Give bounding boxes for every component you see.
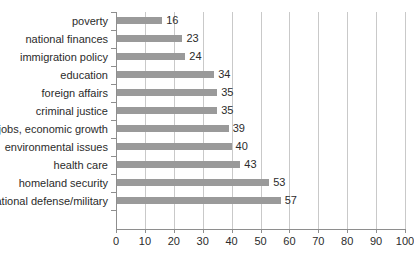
- y-axis-label: environmental issues: [5, 138, 108, 156]
- y-axis-label: health care: [54, 156, 108, 174]
- gridline-100: [405, 12, 406, 229]
- y-axis-label: education: [60, 66, 108, 84]
- bar-row: 35: [116, 84, 405, 102]
- x-axis-tick-label: 20: [168, 235, 180, 247]
- x-axis-tick-label: 90: [370, 235, 382, 247]
- bar: [116, 17, 162, 24]
- x-axis-tick-label: 0: [113, 235, 119, 247]
- x-axis-tick-label: 100: [396, 235, 414, 247]
- bar-value-label: 40: [236, 137, 248, 155]
- bar: [116, 125, 229, 132]
- x-axis-tick-label: 40: [225, 235, 237, 247]
- bar-value-label: 23: [186, 29, 198, 47]
- bar: [116, 71, 214, 78]
- x-axis-tick-label: 10: [139, 235, 151, 247]
- x-axis-tick-label: 50: [254, 235, 266, 247]
- bar-row: 34: [116, 66, 405, 84]
- bar-chart: 1623243435353940435357 povertynational f…: [0, 0, 414, 255]
- y-axis-label: poverty: [72, 12, 108, 30]
- x-axis-tick-label: 30: [197, 235, 209, 247]
- bar-value-label: 16: [166, 11, 178, 29]
- bar-value-label: 53: [273, 173, 285, 191]
- x-axis-tick: [347, 229, 348, 233]
- y-axis-line: [116, 12, 117, 210]
- bar-row: 53: [116, 174, 405, 192]
- y-axis-label: national defense/military: [0, 192, 108, 210]
- y-axis-label: foreign affairs: [42, 84, 108, 102]
- x-axis-tick: [405, 229, 406, 233]
- bar-value-label: 35: [221, 83, 233, 101]
- y-axis-label: jobs, economic growth: [0, 120, 108, 138]
- bar-value-label: 57: [285, 191, 297, 209]
- x-axis-tick: [174, 229, 175, 233]
- bar-value-label: 24: [189, 47, 201, 65]
- bar: [116, 53, 185, 60]
- plot-area: 1623243435353940435357: [116, 12, 405, 229]
- bar: [116, 179, 269, 186]
- x-axis-tick-label: 80: [341, 235, 353, 247]
- x-axis-tick-label: 60: [283, 235, 295, 247]
- x-axis-tick: [232, 229, 233, 233]
- bar: [116, 143, 232, 150]
- bar: [116, 35, 182, 42]
- x-axis-tick: [376, 229, 377, 233]
- bar-value-label: 43: [244, 155, 256, 173]
- bar-row: 57: [116, 192, 405, 210]
- x-axis-tick: [261, 229, 262, 233]
- y-axis-label: criminal justice: [36, 102, 108, 120]
- x-axis-tick: [116, 229, 117, 233]
- bar: [116, 107, 217, 114]
- x-axis-tick: [289, 229, 290, 233]
- bar-value-label: 39: [233, 119, 245, 137]
- bar-row: 43: [116, 156, 405, 174]
- bar: [116, 197, 281, 204]
- bar-row: 35: [116, 102, 405, 120]
- bar-value-label: 35: [221, 101, 233, 119]
- bar-row: 39: [116, 120, 405, 138]
- bar-row: 24: [116, 48, 405, 66]
- x-axis-tick: [318, 229, 319, 233]
- bar-row: 16: [116, 12, 405, 30]
- x-axis-tick: [145, 229, 146, 233]
- bar-row: 23: [116, 30, 405, 48]
- y-axis-tick: [111, 210, 116, 211]
- x-axis-tick: [203, 229, 204, 233]
- x-axis-tick-label: 70: [312, 235, 324, 247]
- y-axis-label: immigration policy: [20, 48, 108, 66]
- bar: [116, 161, 240, 168]
- y-axis-label: national finances: [25, 30, 108, 48]
- bar-row: 40: [116, 138, 405, 156]
- bar: [116, 89, 217, 96]
- y-axis-label: homeland security: [19, 174, 108, 192]
- bar-value-label: 34: [218, 65, 230, 83]
